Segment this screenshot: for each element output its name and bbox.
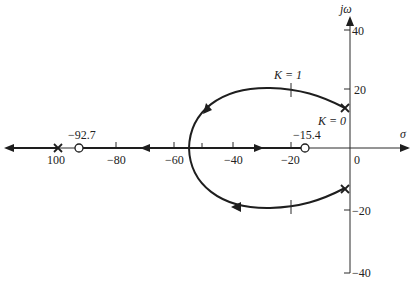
locus-arrow-left-icon	[4, 144, 14, 152]
locus-arrow-left-icon-2	[140, 144, 150, 152]
tick-label-minus-40: −40	[352, 266, 371, 280]
gain-label-k1: K = 1	[273, 68, 302, 82]
real-axis-arrow-icon	[400, 144, 410, 152]
zero-minus-15-4-icon	[301, 144, 309, 152]
locus-lower-branch	[189, 148, 345, 208]
imag-axis-label: jω	[338, 2, 352, 16]
tick-label-100: 100	[47, 153, 65, 167]
tick-label-minus-40: −40	[224, 153, 243, 167]
gain-label-k0: K = 0	[317, 114, 346, 128]
zero-label-minus-15-4: −15.4	[293, 128, 321, 142]
root-locus-diagram: jω σ 100 −80 −60 −40 −20 0 40 20 −20 −40…	[0, 0, 415, 288]
zero-label-minus-92-7: −92.7	[68, 128, 96, 142]
tick-label-minus-20-imag: −20	[352, 204, 371, 218]
tick-label-minus-80: −80	[107, 153, 126, 167]
tick-label-minus-60: −60	[165, 153, 184, 167]
tick-label-40: 40	[352, 24, 364, 38]
tick-label-0: 0	[354, 153, 360, 167]
tick-label-20: 20	[354, 83, 366, 97]
locus-arrow-right-icon	[254, 144, 264, 152]
tick-label-minus-20: −20	[281, 153, 300, 167]
real-axis-label: σ	[400, 127, 407, 141]
zero-minus-92-7-icon	[75, 144, 83, 152]
pole-upper-icon	[341, 104, 349, 112]
